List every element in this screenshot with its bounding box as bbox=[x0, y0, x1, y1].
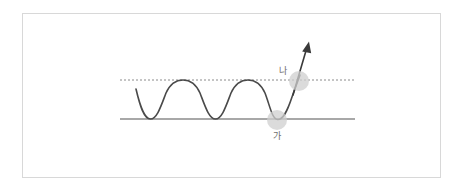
velocity-arrow-head bbox=[302, 42, 311, 54]
ball-na bbox=[289, 71, 309, 91]
ball-na-label: 나 bbox=[279, 66, 287, 76]
ball-ga-label: 가 bbox=[273, 131, 281, 141]
figure-root: 가 나 bbox=[0, 0, 466, 189]
ball-ga bbox=[267, 110, 287, 130]
wave-diagram: 가 나 bbox=[0, 0, 466, 189]
